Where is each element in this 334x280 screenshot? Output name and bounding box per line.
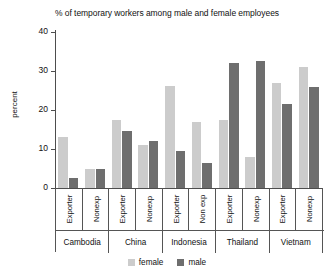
x-axis-subcategory-label: Nonexp [144, 196, 153, 222]
y-axis-tick: 20 [0, 110, 55, 111]
chart-legend: femalemale [0, 258, 334, 267]
bar-male [149, 141, 159, 188]
x-axis-subcategory-label: Exporter [171, 195, 180, 224]
y-axis-tick-label: 40 [39, 26, 48, 36]
x-axis-country-label: Cambodia [64, 238, 101, 247]
bar-male [96, 169, 106, 189]
country-row: CambodiaChinaIndonesiaThailandVietnam [56, 230, 324, 253]
x-axis-subcategory-cell: Nonexp [83, 188, 110, 230]
x-axis-country-label: Thailand [227, 238, 258, 247]
bar-female [245, 157, 255, 188]
bar-male [122, 131, 132, 188]
bars-layer [55, 32, 322, 188]
x-axis-subcategory-label: Nonexp [91, 196, 100, 222]
bar-female [112, 120, 122, 188]
x-axis-subcategory-cell: Non exp [190, 188, 217, 230]
chart-title: % of temporary workers among male and fe… [0, 8, 334, 18]
bar-male [309, 87, 319, 188]
x-axis-subcategory-label: Exporter [225, 195, 234, 224]
bar-chart: % of temporary workers among male and fe… [0, 0, 334, 280]
y-axis-tick: 10 [0, 149, 55, 150]
x-axis-country-label: China [125, 238, 146, 247]
legend-label: male [188, 258, 206, 267]
bar-female [219, 120, 229, 188]
y-axis-tick: 0 [0, 188, 55, 189]
x-axis-subcategory-label: Nonexp [251, 196, 260, 222]
x-axis-country-cell: Vietnam [270, 231, 323, 253]
bar-female [299, 67, 309, 188]
y-axis-label: percent [10, 75, 19, 135]
bar-female [272, 83, 282, 188]
x-axis-subcategory-cell: Nonexp [243, 188, 270, 230]
x-axis-country-cell: Thailand [216, 231, 269, 253]
x-axis-subcategory-cell: Nonexp [136, 188, 163, 230]
x-axis-subcategory-label: Non exp [198, 195, 207, 223]
bar-female [192, 122, 202, 188]
legend-item: female [128, 258, 164, 267]
x-axis-subcategory-cell: Exporter [216, 188, 243, 230]
x-axis-subcategory-cell: Exporter [56, 188, 83, 230]
x-axis-subcategory-cell: Exporter [270, 188, 297, 230]
category-axis-table: ExporterNonexpExporterNonexpExporterNon … [55, 188, 324, 252]
subcategory-row: ExporterNonexpExporterNonexpExporterNon … [56, 188, 324, 230]
legend-swatch-female [128, 259, 135, 266]
x-axis-subcategory-cell: Exporter [163, 188, 190, 230]
bar-male [256, 61, 266, 188]
bar-male [69, 178, 79, 188]
legend-item: male [177, 258, 206, 267]
x-axis-country-label: Indonesia [171, 238, 207, 247]
x-axis-country-cell: Cambodia [56, 231, 109, 253]
legend-label: female [139, 258, 164, 267]
legend-swatch-male [177, 259, 184, 266]
y-axis-tick-label: 20 [39, 104, 48, 114]
bar-male [282, 104, 292, 188]
y-axis-tick-label: 30 [39, 65, 48, 75]
bar-female [58, 137, 68, 188]
y-axis-tick: 30 [0, 71, 55, 72]
x-axis-country-cell: Indonesia [163, 231, 216, 253]
bar-male [176, 151, 186, 188]
x-axis-country-label: Vietnam [281, 238, 311, 247]
x-axis-subcategory-label: Exporter [64, 195, 73, 224]
y-axis-tick: 40 [0, 32, 55, 33]
x-axis-subcategory-label: Nonexp [305, 196, 314, 222]
bar-male [202, 163, 212, 188]
x-axis-subcategory-label: Exporter [278, 195, 287, 224]
bar-male [229, 63, 239, 188]
x-axis-subcategory-cell: Exporter [109, 188, 136, 230]
bar-female [165, 86, 175, 188]
x-axis-country-cell: China [109, 231, 162, 253]
x-axis-subcategory-label: Exporter [118, 195, 127, 224]
x-axis-subcategory-cell: Nonexp [296, 188, 323, 230]
y-axis-tick-label: 10 [39, 143, 48, 153]
bar-female [85, 169, 95, 188]
y-axis-tick-label: 0 [43, 182, 48, 192]
bar-female [138, 145, 148, 188]
